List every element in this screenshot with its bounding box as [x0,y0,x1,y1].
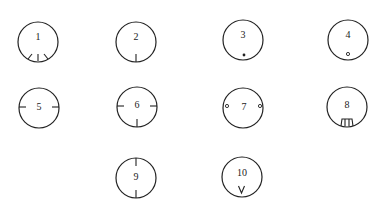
connector-2-label: 2 [134,31,139,42]
filled-dot-icon [243,54,246,57]
connector-7: 7 [223,88,263,128]
left-hollow-dot-icon [225,104,228,107]
connector-4: 4 [328,20,368,60]
v-mark-icon [239,186,245,193]
connector-9: 9 [116,158,156,198]
connector-10: 10 [222,157,262,197]
hollow-dot-icon [346,52,349,55]
connector-10-label: 10 [237,167,247,178]
connector-6-label: 6 [135,99,140,110]
connector-9-label: 9 [134,171,139,182]
connector-1: 1 [18,22,58,62]
connector-2: 2 [116,22,156,62]
key-notch-icon [341,119,353,126]
connector-5: 5 [19,88,59,128]
connector-diagram: 1 2 3 4 5 6 7 [0,0,387,206]
connector-8-label: 8 [345,99,350,110]
connector-6: 6 [117,87,157,127]
connector-3-label: 3 [241,29,246,40]
fan-slots-icon [28,54,48,61]
connector-3: 3 [223,20,263,60]
connector-5-label: 5 [37,101,42,112]
connector-8: 8 [327,87,367,127]
connector-4-label: 4 [346,29,351,40]
right-hollow-dot-icon [258,104,261,107]
connector-7-label: 7 [242,101,247,112]
connector-1-label: 1 [36,31,41,42]
